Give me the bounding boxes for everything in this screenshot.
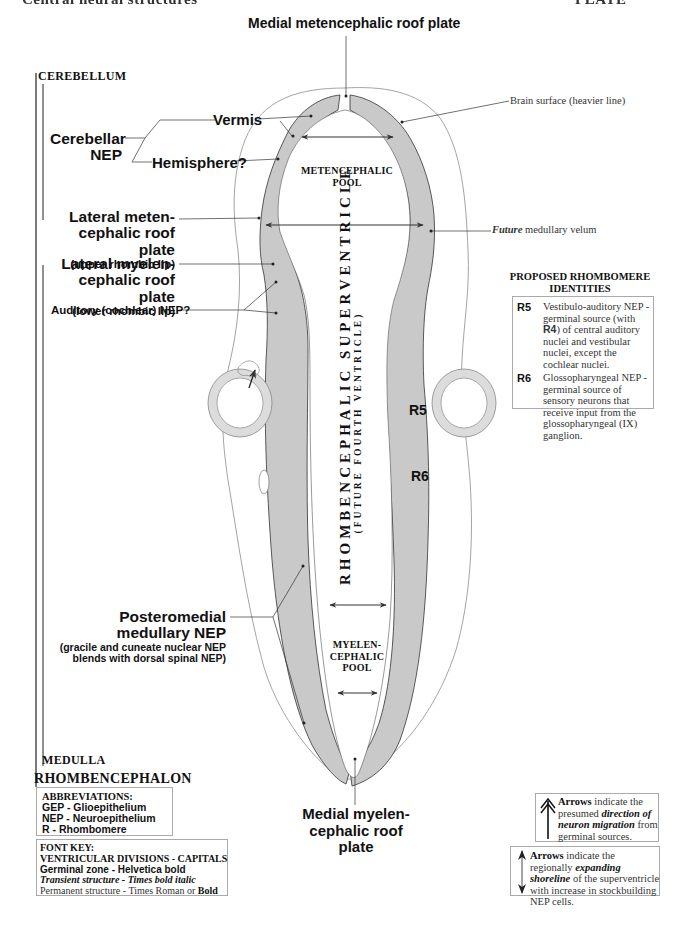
- marker-r6: R6: [411, 468, 429, 484]
- rhombomere-item: R5 Vestibulo-auditory NEP - germinal sou…: [517, 301, 651, 370]
- label-medial-myelencephalic-roof-plate: Medial myelen- cephalic roof plate: [296, 806, 416, 856]
- label-future-medullary-velum: Future medullary velum: [492, 224, 596, 235]
- label-medial-metencephalic-roof-plate: Medial metencephalic roof plate: [248, 15, 460, 31]
- font-key-box: FONT KEY: VENTRICULAR DIVISIONS - CAPITA…: [36, 839, 228, 896]
- label-posteromedial-medullary-nep: Posteromedial medullary NEP (gracile and…: [40, 609, 226, 664]
- label-hemisphere: Hemisphere?: [152, 154, 247, 171]
- division-medulla: MEDULLA: [42, 753, 105, 768]
- abbreviations-box: ABBREVIATIONS: GEP - Glioepithelium NEP …: [36, 787, 173, 836]
- legend-migration-arrows: Arrows indicate the presumed direction o…: [535, 793, 659, 842]
- label-rhombencephalic-superventricle: RHOMBENCEPHALIC SUPERVENTRICLE (FUTURE F…: [338, 260, 364, 585]
- marker-r5: R5: [409, 402, 427, 418]
- label-vermis: Vermis: [213, 111, 262, 128]
- label-brain-surface: Brain surface (heavier line): [510, 95, 625, 106]
- label-myelencephalic-pool: MYELEN- CEPHALIC POOL: [322, 639, 392, 674]
- division-cerebellum: CEREBELLUM: [38, 69, 126, 84]
- legend-shoreline-arrows: Arrows indicate the regionally expanding…: [510, 846, 660, 896]
- label-cerebellar-nep: Cerebellar NEP: [50, 131, 122, 164]
- shoreline-arrow-icon: [515, 848, 529, 896]
- rhombomere-item: R6 Glossopharyngeal NEP - germinal sourc…: [517, 372, 651, 441]
- division-rhombencephalon: RHOMBENCEPHALON: [34, 771, 192, 787]
- rhombomere-identities-panel: R5 Vestibulo-auditory NEP - germinal sou…: [512, 296, 654, 409]
- migration-arrow-icon: [538, 795, 558, 841]
- label-auditory-nep: Auditory (cochlear) NEP?: [51, 304, 190, 316]
- rhombomere-panel-title: PROPOSED RHOMBOMERE IDENTITIES: [505, 271, 655, 295]
